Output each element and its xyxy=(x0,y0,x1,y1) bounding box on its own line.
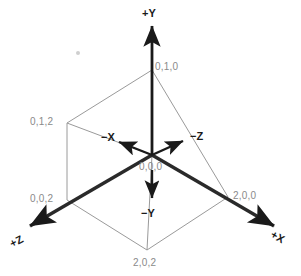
coordinate-system-diagram: +Y −Y −X −Z +X +Z 0,0,0 0,1,0 0,1,2 0,0,… xyxy=(0,0,301,276)
edge-bottom-to-origin xyxy=(147,155,152,250)
edge-leftbot-to-bottom xyxy=(67,200,147,250)
edge-top-to-lefttop xyxy=(67,70,152,123)
diagram-canvas xyxy=(0,0,301,276)
edge-bottom-to-right xyxy=(147,197,228,250)
axis-x-positive-line xyxy=(152,155,274,226)
axis-z-negative-line xyxy=(152,141,183,155)
axis-x-negative-line xyxy=(119,142,152,155)
speckle-artifact xyxy=(76,51,80,55)
